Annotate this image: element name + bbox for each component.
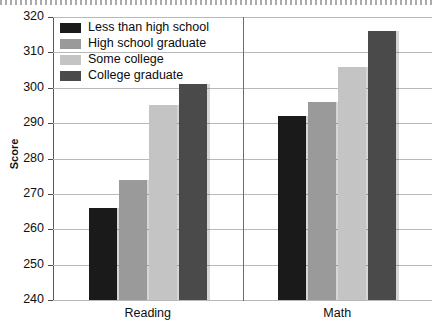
y-axis-tickmark: [48, 300, 53, 301]
bar-chart-figure: Score 320310300290280270260250240 Readin…: [0, 0, 432, 328]
legend-item: College graduate: [60, 68, 209, 83]
y-axis-tick-label: 260: [4, 221, 44, 235]
group-divider: [243, 17, 244, 301]
bar: [89, 208, 117, 300]
legend-item: High school graduate: [60, 36, 209, 51]
legend-swatch: [60, 71, 81, 81]
legend-swatch: [60, 55, 81, 65]
y-axis-tick-label: 300: [4, 80, 44, 94]
y-axis-tick-label: 250: [4, 257, 44, 271]
legend-label: Some college: [88, 53, 164, 66]
legend-label: College graduate: [88, 69, 183, 82]
bar: [119, 180, 147, 300]
bar: [149, 105, 177, 300]
legend: Less than high schoolHigh school graduat…: [60, 20, 209, 83]
legend-swatch: [60, 23, 81, 33]
y-axis-tick-label: 240: [4, 292, 44, 306]
y-axis-tick-label: 320: [4, 9, 44, 23]
scan-artifact-strip: [0, 0, 432, 5]
bar: [308, 102, 336, 300]
legend-swatch: [60, 39, 81, 49]
y-axis-tick-label: 310: [4, 44, 44, 58]
bar: [278, 116, 306, 300]
y-axis-tick-label: 280: [4, 151, 44, 165]
legend-item: Less than high school: [60, 20, 209, 35]
y-axis-tick-label: 270: [4, 186, 44, 200]
x-axis-tick-label: Reading: [88, 306, 208, 320]
bar: [179, 84, 207, 300]
bar: [338, 67, 366, 300]
legend-label: Less than high school: [88, 21, 209, 34]
legend-label: High school graduate: [88, 37, 206, 50]
bar: [368, 31, 396, 300]
x-axis-tick-label: Math: [277, 306, 397, 320]
y-axis-tick-label: 290: [4, 115, 44, 129]
legend-item: Some college: [60, 52, 209, 67]
